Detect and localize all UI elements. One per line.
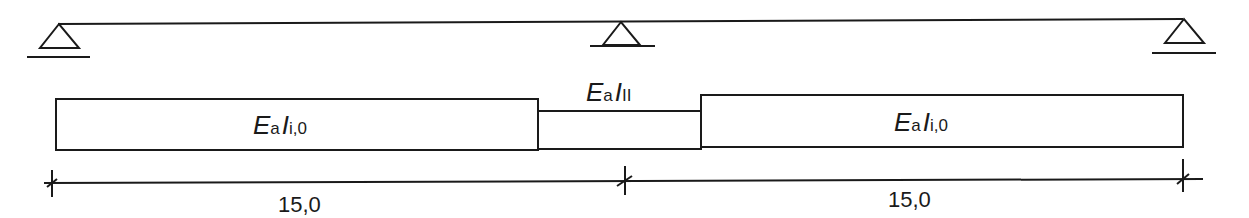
support-triangle-icon	[603, 22, 640, 45]
dimension-tick-right	[1177, 159, 1189, 192]
stiffness-label-right: EaIi,0	[894, 107, 948, 137]
stiffness-label-left: EaIi,0	[253, 110, 307, 140]
support-triangle-icon	[1165, 19, 1204, 43]
support-right	[1152, 19, 1216, 53]
stiffness-zone-middle	[538, 111, 701, 149]
stiffness-label-middle: EaIII	[586, 77, 632, 107]
support-left	[27, 24, 90, 57]
beam-diagram: EaIi,0 EaIII EaIi,0 15,0 15,0	[0, 0, 1249, 218]
support-middle	[590, 22, 655, 46]
span-length-label-2: 15,0	[888, 187, 931, 212]
span-length-label-1: 15,0	[278, 192, 321, 217]
beam-diagram-svg: EaIi,0 EaIII EaIi,0 15,0 15,0	[0, 0, 1249, 218]
support-triangle-icon	[40, 24, 79, 48]
